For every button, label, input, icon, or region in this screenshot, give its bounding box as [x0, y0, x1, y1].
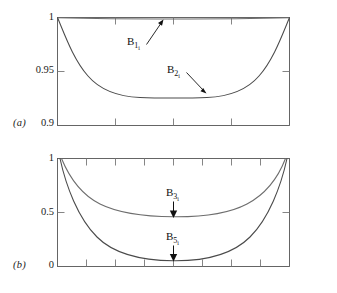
annotation-leader-b5i [170, 246, 177, 262]
annotation-leader-b3i [170, 202, 177, 219]
curve-label-b5i: B5i [166, 231, 179, 246]
figure-root: (a) 1 0.95 0.9 [0, 0, 337, 293]
panel-b: (b) 1 0.5 0 [0, 146, 337, 293]
curve-label-b2i: B2i [167, 64, 180, 79]
annotation-leader-b1i [147, 20, 164, 45]
curve-b2i [58, 18, 290, 99]
panel-a-xticks-bottom [116, 119, 232, 126]
curve-label-b1i-sub2: i [138, 45, 140, 51]
curve-label-b2i-sub2: i [178, 73, 180, 79]
curve-label-b3i: B3i [166, 187, 179, 202]
panel-b-xticks-top [87, 159, 261, 166]
panel-b-plot [0, 146, 337, 293]
panel-a: (a) 1 0.95 0.9 [0, 0, 337, 146]
annotation-leader-b2i [187, 73, 207, 94]
curve-label-b1i: B1i [127, 36, 140, 51]
curve-label-b3i-sub2: i [177, 196, 179, 202]
curve-label-b5i-sub2: i [177, 240, 179, 246]
